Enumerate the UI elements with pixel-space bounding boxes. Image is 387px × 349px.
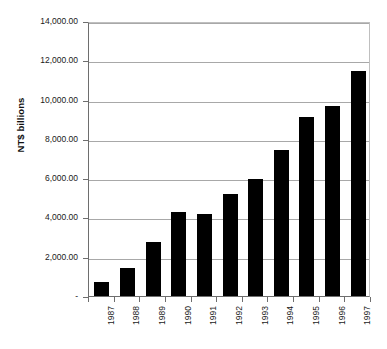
bar — [248, 179, 263, 296]
x-axis-tick-mark — [242, 297, 243, 302]
y-axis-tick-label: 14,000.00 — [40, 17, 78, 26]
x-axis-tick-mark — [344, 297, 345, 302]
y-axis-tick-label: 6,000.00 — [45, 174, 78, 183]
bar — [299, 117, 314, 296]
x-axis-tick-mark — [165, 297, 166, 302]
x-axis-tick-label: 1992 — [234, 306, 245, 340]
y-axis-tick-label: 8,000.00 — [45, 135, 78, 144]
x-axis-tick-mark — [88, 297, 89, 302]
bar — [197, 214, 212, 296]
y-axis-tick-labels: -2,000.004,000.006,000.008,000.0010,000.… — [0, 0, 84, 349]
x-axis-tick-label: 1993 — [260, 306, 271, 340]
x-axis-tick-mark — [293, 297, 294, 302]
bar — [146, 242, 161, 296]
bar — [94, 282, 109, 296]
y-axis-tick-label: 10,000.00 — [40, 96, 78, 105]
gridline — [89, 62, 369, 63]
y-axis-tick-label: - — [75, 292, 78, 301]
x-axis-tick-label: 1996 — [337, 306, 348, 340]
bar-chart: NT$ billions -2,000.004,000.006,000.008,… — [0, 0, 387, 349]
bar — [351, 71, 366, 296]
x-axis-tick-mark — [267, 297, 268, 302]
y-axis-tick-label: 4,000.00 — [45, 213, 78, 222]
bar — [171, 212, 186, 296]
x-axis-tick-label: 1987 — [106, 306, 117, 340]
bar — [120, 268, 135, 296]
bar — [274, 150, 289, 296]
x-axis-tick-label: 1989 — [157, 306, 168, 340]
x-axis-tick-mark — [139, 297, 140, 302]
x-axis-tick-label: 1990 — [183, 306, 194, 340]
bar — [325, 106, 340, 296]
x-axis-tick-mark — [216, 297, 217, 302]
x-axis-tick-label: 1994 — [285, 306, 296, 340]
x-axis-tick-mark — [370, 297, 371, 302]
x-axis-tick-label: 1991 — [208, 306, 219, 340]
x-axis-tick-label: 1997 — [362, 306, 373, 340]
x-axis-tick-mark — [191, 297, 192, 302]
bar — [223, 194, 238, 296]
x-axis-tick-label: 1995 — [311, 306, 322, 340]
x-axis-tick-label: 1988 — [131, 306, 142, 340]
gridline — [89, 102, 369, 103]
gridline — [89, 23, 369, 24]
x-axis-tick-mark — [319, 297, 320, 302]
x-axis-tick-mark — [114, 297, 115, 302]
y-axis-tick-label: 2,000.00 — [45, 253, 78, 262]
y-axis-tick-label: 12,000.00 — [40, 56, 78, 65]
plot-area — [88, 22, 370, 297]
